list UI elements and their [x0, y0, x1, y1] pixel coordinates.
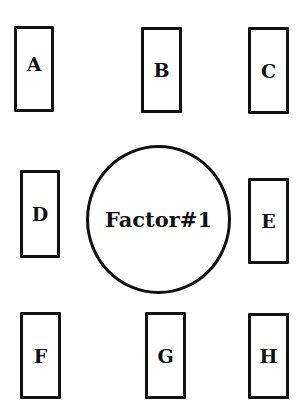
- node-h: H: [248, 313, 289, 399]
- factor-circle: Factor#1: [86, 145, 231, 294]
- node-g: G: [145, 312, 186, 399]
- factor-label: Factor#1: [105, 207, 212, 232]
- node-f-label: F: [34, 345, 48, 367]
- node-d: D: [20, 170, 60, 258]
- node-e-label: E: [261, 210, 275, 232]
- node-c: C: [248, 27, 289, 114]
- node-a: A: [14, 26, 54, 112]
- node-h-label: H: [260, 345, 278, 367]
- node-f: F: [20, 312, 61, 399]
- node-c-label: C: [261, 60, 276, 82]
- node-e: E: [248, 178, 289, 264]
- node-g-label: G: [157, 345, 173, 367]
- node-a-label: A: [27, 53, 42, 75]
- node-b: B: [141, 27, 182, 113]
- node-d-label: D: [32, 203, 48, 225]
- node-b-label: B: [153, 59, 169, 81]
